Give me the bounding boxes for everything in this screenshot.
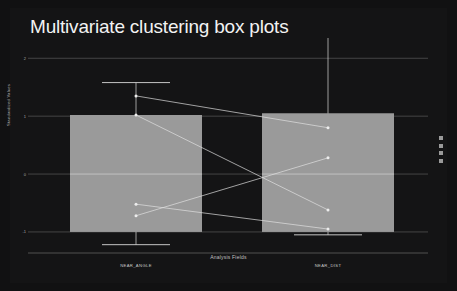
connector-point[interactable]: [135, 94, 138, 97]
x-tick-label-near_dist: NEAR_DIST: [288, 263, 368, 268]
legend-swatch-icon: [439, 151, 443, 155]
connector-point[interactable]: [327, 208, 330, 211]
box-rect[interactable]: [262, 113, 394, 232]
legend-swatch-icon: [439, 136, 443, 140]
connector-point[interactable]: [327, 228, 330, 231]
connector-point[interactable]: [135, 114, 138, 117]
y-tick-label-3: -1: [14, 229, 26, 234]
legend-item-0[interactable]: [439, 136, 445, 140]
x-tick-label-near_angle: NEAR_ANGLE: [96, 263, 176, 268]
legend-swatch-icon: [439, 144, 443, 148]
legend-item-3[interactable]: [439, 159, 445, 163]
boxplot-svg: [28, 38, 428, 258]
y-axis-title: Standardized Values: [6, 84, 11, 126]
y-tick-label-1: 1: [14, 114, 26, 119]
legend-item-1[interactable]: [439, 144, 445, 148]
connector-point[interactable]: [327, 156, 330, 159]
connector-point[interactable]: [327, 126, 330, 129]
box-group-NEAR_ANGLE[interactable]: [70, 83, 202, 245]
legend-swatch-icon: [439, 159, 443, 163]
legend-item-2[interactable]: [439, 151, 445, 155]
connector-point[interactable]: [135, 203, 138, 206]
plot-area: [28, 38, 428, 258]
x-axis-title: Analysis Fields: [10, 254, 447, 260]
legend[interactable]: [439, 136, 445, 163]
chart-title: Multivariate clustering box plots: [30, 16, 288, 38]
y-tick-label-0: 2: [14, 56, 26, 61]
box-group-NEAR_DIST[interactable]: [262, 38, 394, 235]
chart-screenshot: Multivariate clustering box plots Standa…: [0, 0, 457, 291]
connector-point[interactable]: [135, 214, 138, 217]
chart-card: Multivariate clustering box plots Standa…: [10, 8, 447, 283]
y-tick-label-2: 0: [14, 172, 26, 177]
